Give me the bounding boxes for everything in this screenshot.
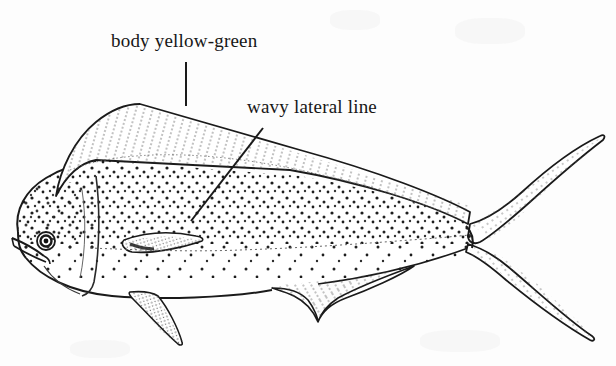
dolphinfish-illustration	[0, 0, 616, 366]
caudal-upper-shading	[462, 132, 608, 248]
label-wavy-lateral-line: wavy lateral line	[247, 96, 377, 118]
figure-page: body yellow-green wavy lateral line	[0, 0, 616, 366]
label-body-yellow-green: body yellow-green	[111, 30, 257, 52]
caudal-fin	[462, 132, 608, 348]
caudal-lower-shading	[462, 240, 608, 348]
peduncle-notch-dot	[467, 234, 471, 238]
